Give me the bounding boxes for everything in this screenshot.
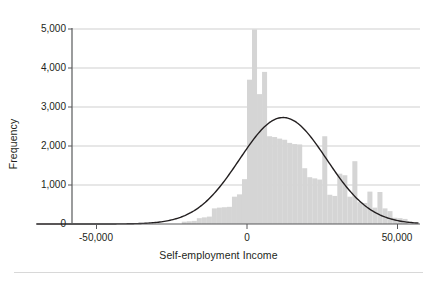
histogram-bar	[317, 180, 322, 224]
y-tick-label: 0	[20, 219, 66, 229]
footer-divider	[14, 272, 423, 273]
histogram-bar	[202, 217, 207, 224]
x-tick-label: 0	[244, 233, 250, 243]
x-tick-label: 50,000	[382, 233, 413, 243]
histogram-bar	[272, 137, 277, 224]
histogram-bar	[262, 72, 267, 224]
histogram-bar	[227, 207, 232, 224]
y-tick-label: 2,000	[20, 141, 66, 151]
histogram-bar	[332, 196, 337, 224]
histogram-bar	[307, 177, 312, 224]
histogram-bar	[287, 143, 292, 224]
histogram-bar	[222, 207, 227, 224]
histogram-bar	[207, 217, 212, 224]
histogram-figure: Frequency 5,000 4,000 3,000 2,000 1,000 …	[0, 0, 437, 288]
histogram-bar	[212, 208, 217, 224]
histogram-bar	[297, 144, 302, 224]
histogram-bar	[237, 194, 242, 224]
histogram-bar	[247, 80, 252, 224]
histogram-bar	[232, 197, 237, 224]
histogram-bar	[282, 140, 287, 224]
y-axis-tick-labels: 5,000 4,000 3,000 2,000 1,000 0	[14, 0, 66, 288]
histogram-bar	[197, 218, 202, 224]
histogram-bar	[357, 202, 362, 224]
histogram-bar	[347, 197, 352, 224]
x-tick-label: -50,000	[79, 233, 113, 243]
y-tick-label: 4,000	[20, 63, 66, 73]
histogram-bar	[322, 136, 327, 224]
histogram-bar	[302, 168, 307, 224]
histogram-bar	[242, 179, 247, 224]
histogram-bar	[217, 208, 222, 224]
y-tick-label: 3,000	[20, 102, 66, 112]
histogram-bar	[252, 29, 257, 224]
histogram-bar	[292, 144, 297, 224]
histogram-bars	[182, 29, 408, 224]
y-tick-label: 5,000	[20, 24, 66, 34]
y-tick-label: 1,000	[20, 180, 66, 190]
histogram-bar	[352, 161, 357, 224]
gridlines	[72, 29, 420, 185]
histogram-bar	[267, 136, 272, 224]
histogram-bar	[372, 208, 377, 224]
x-axis-tick-marks	[97, 224, 398, 229]
x-axis-title: Self-employment Income	[0, 249, 437, 261]
histogram-bar	[327, 195, 332, 224]
histogram-bar	[377, 192, 382, 224]
histogram-bar	[312, 178, 317, 224]
histogram-bar	[257, 94, 262, 224]
histogram-bar	[277, 139, 282, 224]
